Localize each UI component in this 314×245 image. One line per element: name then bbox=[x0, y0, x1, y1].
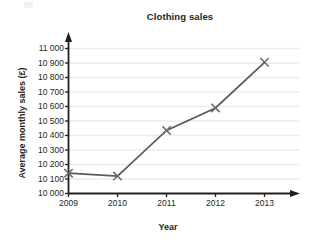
gridlines bbox=[69, 49, 301, 180]
line-chart: Clothing sales Average monthly sales (£)… bbox=[0, 0, 314, 245]
plot-area bbox=[0, 0, 314, 245]
data-line-series bbox=[69, 62, 265, 176]
axis-lines bbox=[65, 32, 300, 197]
data-point-markers bbox=[64, 58, 268, 180]
